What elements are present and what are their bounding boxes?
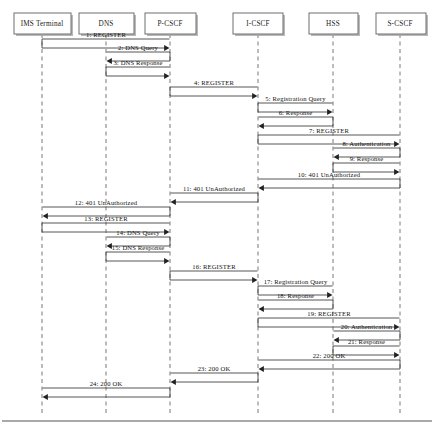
message-16[interactable]: 16: REGISTER <box>170 263 258 283</box>
message-arrowhead-5 <box>327 109 332 115</box>
message-23[interactable]: 23: 200 OK <box>171 365 259 385</box>
message-arrowhead-3 <box>164 73 169 79</box>
message-label-14: 14: DNS Query <box>116 229 160 236</box>
message-label-9: 9: Response <box>350 155 384 162</box>
message-label-2: 2: DNS Query <box>118 44 158 51</box>
message-arrowhead-2 <box>107 58 112 64</box>
message-arrowhead-6 <box>259 123 264 129</box>
message-arrowhead-12 <box>43 213 48 219</box>
message-arrowhead-10 <box>259 185 264 191</box>
message-15[interactable]: 15: DNS Response <box>106 244 170 264</box>
message-arrowhead-23 <box>171 379 176 385</box>
message-label-12: 12: 401 UnAuthorized <box>75 199 138 206</box>
message-arrowhead-15 <box>164 258 169 264</box>
message-label-15: 15: DNS Response <box>112 244 165 251</box>
message-label-6: 6: Response <box>279 109 313 116</box>
message-arrowhead-18 <box>259 306 264 312</box>
message-label-22: 22: 200 OK <box>313 352 346 359</box>
message-arrowhead-20 <box>334 337 339 343</box>
message-label-8: 8: Authentication <box>342 140 391 147</box>
message-label-10: 10: 401 UnAuthorized <box>298 171 361 178</box>
lifelines-group: IMS TerminalDNSP-CSCFI-CSCFHSSS-CSCF <box>14 13 428 414</box>
message-arrowhead-16 <box>252 277 257 283</box>
message-label-24: 24: 200 OK <box>90 380 123 387</box>
lifeline-label-icscf: I-CSCF <box>246 20 270 28</box>
message-11[interactable]: 11: 401 UnAuthorized <box>171 185 259 205</box>
message-arrowhead-11 <box>171 199 176 205</box>
lifeline-scscf: S-CSCF <box>376 13 428 414</box>
lifeline-label-pcscf: P-CSCF <box>157 20 182 28</box>
lifeline-pcscf: P-CSCF <box>145 13 198 414</box>
message-label-5: 5: Registration Query <box>265 95 326 102</box>
message-label-7: 7: REGISTER <box>309 127 349 134</box>
lifeline-label-scscf: S-CSCF <box>387 20 412 28</box>
sequence-diagram-canvas: IMS TerminalDNSP-CSCFI-CSCFHSSS-CSCF 1: … <box>0 0 434 429</box>
message-arrowhead-4 <box>252 93 257 99</box>
message-arrowhead-1 <box>164 45 169 51</box>
messages-group: 1: REGISTER2: DNS Query3: DNS Response4:… <box>42 31 400 400</box>
message-arrowhead-17 <box>327 292 332 298</box>
message-arrowhead-9 <box>394 169 399 175</box>
lifeline-label-dns: DNS <box>99 20 114 28</box>
message-label-11: 11: 401 UnAuthorized <box>183 185 246 192</box>
message-arrowhead-21 <box>394 352 399 358</box>
sequence-diagram-svg: IMS TerminalDNSP-CSCFI-CSCFHSSS-CSCF 1: … <box>0 0 434 429</box>
message-label-18: 18: Response <box>277 292 314 299</box>
message-arrowhead-24 <box>43 394 48 400</box>
message-3[interactable]: 3: DNS Response <box>106 59 170 79</box>
message-arrowhead-7 <box>394 141 399 147</box>
lifeline-label-hss: HSS <box>326 20 340 28</box>
message-label-20: 20: Authentication <box>341 323 393 330</box>
message-label-4: 4: REGISTER <box>194 79 234 86</box>
message-label-17: 17: Registration Query <box>264 278 328 285</box>
message-arrowhead-8 <box>334 154 339 160</box>
message-label-1: 1: REGISTER <box>86 31 126 38</box>
message-10[interactable]: 10: 401 UnAuthorized <box>259 171 401 191</box>
message-label-13: 13: REGISTER <box>84 215 128 222</box>
lifeline-label-ims: IMS Terminal <box>21 20 64 28</box>
message-arrowhead-13 <box>164 229 169 235</box>
lifeline-ims: IMS Terminal <box>14 13 73 414</box>
message-arrowhead-22 <box>259 366 264 372</box>
message-label-19: 19: REGISTER <box>307 310 351 317</box>
message-label-3: 3: DNS Response <box>113 59 162 66</box>
lifeline-dns: DNS <box>79 13 136 414</box>
message-label-21: 21: Response <box>348 338 385 345</box>
message-arrowhead-19 <box>394 324 399 330</box>
message-label-23: 23: 200 OK <box>198 365 231 372</box>
lifeline-icscf: I-CSCF <box>233 13 285 414</box>
message-4[interactable]: 4: REGISTER <box>170 79 258 99</box>
message-label-16: 16: REGISTER <box>192 263 236 270</box>
